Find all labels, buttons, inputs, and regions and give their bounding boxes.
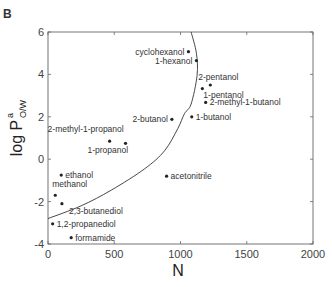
y-tick-label: 0 [38, 153, 44, 165]
point-label: 2-methyl-1-propanol [48, 124, 124, 134]
point-label: formamide [75, 233, 115, 243]
point-label: 1-propanol [88, 145, 129, 155]
data-point: 1-propanol [88, 142, 129, 156]
data-point: 2,3-butanediol [60, 202, 123, 216]
data-point: 1,2-propanediol [51, 219, 116, 229]
point-marker [70, 236, 73, 239]
y-tick-label: 2 [38, 111, 44, 123]
data-point: 2-butanol [132, 114, 173, 124]
data-points: cyclohexanol1-hexanol2-pentanol1-pentano… [48, 47, 281, 243]
x-tick-label: 1500 [235, 248, 259, 260]
point-marker [187, 50, 190, 53]
y-tick-label: -2 [34, 196, 44, 208]
point-marker [209, 83, 212, 86]
point-marker [195, 59, 198, 62]
point-marker [60, 202, 63, 205]
data-point: 1-hexanol [155, 56, 198, 66]
y-tick-label: 4 [38, 68, 44, 80]
scatter-chart: B 0500100015002000-4-20246 cyclohexanol1… [0, 0, 332, 287]
x-tick-label: 2000 [301, 248, 325, 260]
y-axis-title-subscript: O/W [18, 99, 28, 118]
point-marker [108, 140, 111, 143]
data-point: 2-methyl-1-propanol [48, 124, 124, 143]
x-tick-label: 0 [45, 248, 51, 260]
data-point: 2-methyl-1-butanol [204, 97, 281, 107]
point-marker [165, 175, 168, 178]
point-label: 2-methyl-1-butanol [210, 97, 281, 107]
point-marker [60, 174, 63, 177]
point-label: 2,3-butanediol [69, 206, 123, 216]
point-marker [190, 115, 193, 118]
point-label: 2-butanol [132, 114, 168, 124]
point-label: 2-pentanol [198, 72, 238, 82]
data-point: formamide [70, 233, 116, 243]
y-tick-label: -4 [34, 238, 44, 250]
x-tick-label: 500 [105, 248, 123, 260]
x-axis-title: N [172, 262, 184, 279]
point-marker [204, 101, 207, 104]
point-marker [51, 222, 54, 225]
y-tick-label: 6 [38, 26, 44, 38]
data-point: 2-pentanol [198, 72, 238, 87]
y-axis-title-superscript: a [5, 113, 15, 118]
point-label: 1-hexanol [155, 56, 192, 66]
point-label: methanol [52, 179, 87, 189]
panel-label: B [3, 7, 12, 21]
point-marker [170, 118, 173, 121]
y-axis-title-main: log P [8, 120, 25, 156]
point-marker [54, 194, 57, 197]
y-axis-title: log P a O/W [5, 99, 28, 156]
x-tick-label: 1000 [168, 248, 192, 260]
data-point: 1-butanol [190, 112, 231, 122]
data-point: methanol [52, 179, 87, 197]
point-label: 1-butanol [196, 112, 232, 122]
data-point: acetonitrile [165, 171, 212, 181]
point-label: 1,2-propanediol [57, 219, 116, 229]
point-label: acetonitrile [171, 171, 212, 181]
